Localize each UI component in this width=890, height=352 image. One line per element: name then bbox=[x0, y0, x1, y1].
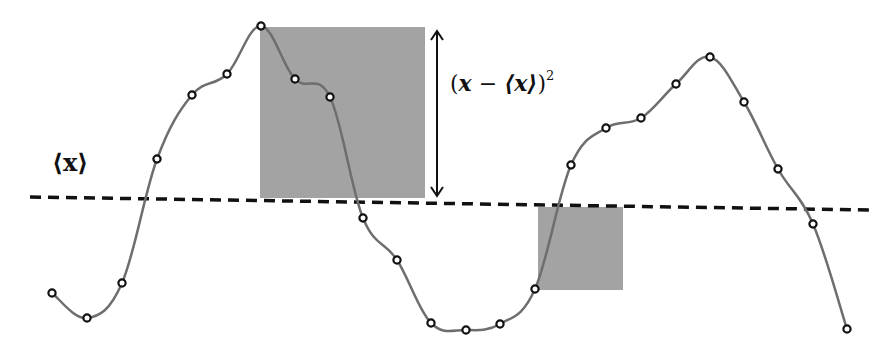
data-point-marker bbox=[740, 98, 747, 105]
data-point-marker bbox=[843, 325, 850, 332]
data-point-marker bbox=[602, 124, 609, 131]
mean-label: ⟨x⟩ bbox=[52, 148, 88, 177]
data-point-marker bbox=[531, 285, 538, 292]
data-point-marker bbox=[188, 91, 195, 98]
data-point-marker bbox=[706, 53, 713, 60]
squared-deviation-label: (x − ⟨x⟩)2 bbox=[450, 70, 554, 96]
data-point-marker bbox=[153, 155, 160, 162]
data-point-marker bbox=[326, 93, 333, 100]
data-point-marker bbox=[672, 80, 679, 87]
paren-close: ) bbox=[537, 71, 546, 96]
data-point-marker bbox=[809, 220, 816, 227]
data-point-marker bbox=[462, 326, 469, 333]
mean-symbol: ⟨x⟩ bbox=[504, 70, 537, 96]
deviation-double-arrow bbox=[431, 31, 443, 196]
large-deviation-square bbox=[260, 27, 425, 198]
data-point-marker bbox=[359, 214, 366, 221]
minus-sign: − bbox=[472, 71, 504, 96]
data-point-marker bbox=[291, 75, 298, 82]
variance-diagram bbox=[0, 0, 890, 352]
squared-deviation-squares bbox=[260, 27, 623, 290]
data-point-marker bbox=[223, 70, 230, 77]
data-point-marker bbox=[393, 256, 400, 263]
data-point-marker bbox=[118, 279, 125, 286]
data-point-marker bbox=[83, 314, 90, 321]
exponent: 2 bbox=[546, 68, 554, 83]
data-point-marker bbox=[257, 22, 264, 29]
small-deviation-square bbox=[538, 207, 623, 290]
data-point-marker bbox=[774, 165, 781, 172]
x-symbol: x bbox=[459, 70, 472, 96]
data-point-marker bbox=[567, 161, 574, 168]
paren-open: ( bbox=[450, 71, 459, 96]
mean-dashed-line bbox=[30, 197, 870, 210]
data-point-marker bbox=[496, 320, 503, 327]
data-point-marker bbox=[427, 319, 434, 326]
data-point-marker bbox=[637, 114, 644, 121]
data-point-marker bbox=[48, 289, 55, 296]
